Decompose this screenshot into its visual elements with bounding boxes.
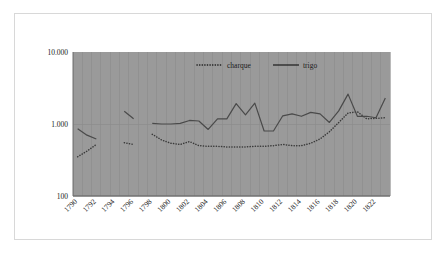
plot-wrapper: 10.0001.000100 1790179217941796179818001… [0,0,446,253]
y-axis-tick-labels: 10.0001.000100 [47,48,68,201]
x-tick-label: 1808 [230,197,247,214]
x-tick-label: 1810 [249,197,266,214]
legend-label-charque: charque [227,61,251,70]
chart-figure: 10.0001.000100 1790179217941796179818001… [0,0,446,253]
y-tick-label: 10.000 [47,48,68,57]
x-tick-label: 1802 [174,197,191,214]
y-tick-label: 1.000 [51,120,68,129]
x-tick-label: 1796 [118,197,135,214]
x-tick-label: 1798 [137,197,154,214]
x-tick-label: 1812 [267,197,284,214]
x-tick-label: 1806 [211,197,228,214]
x-tick-label: 1822 [360,197,377,214]
legend-label-trigo: trigo [303,61,317,70]
x-tick-label: 1792 [81,197,98,214]
x-tick-label: 1820 [342,197,359,214]
x-tick-label: 1794 [99,197,116,214]
x-tick-label: 1818 [323,197,340,214]
x-tick-label: 1804 [193,197,210,214]
y-tick-label: 100 [57,192,69,201]
x-tick-label: 1800 [155,197,172,214]
x-tick-label: 1816 [305,197,322,214]
x-tick-label: 1814 [286,197,303,214]
x-axis-tick-labels: 1790179217941796179818001802180418061808… [62,197,377,214]
line-chart: 10.0001.000100 1790179217941796179818001… [0,0,446,253]
